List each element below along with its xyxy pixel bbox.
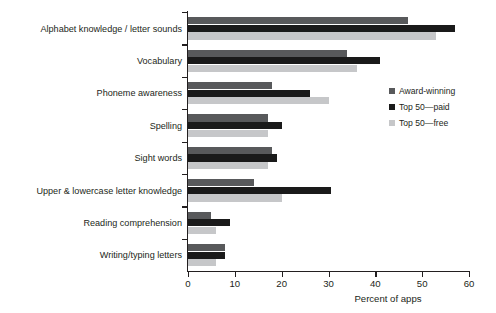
bar-award — [188, 147, 272, 154]
bar-paid — [188, 252, 225, 259]
x-axis-tick-label: 30 — [323, 278, 334, 289]
bar-paid — [188, 122, 282, 129]
x-axis-tick-label: 10 — [229, 278, 240, 289]
bar-free — [188, 194, 282, 201]
bar-free — [188, 130, 268, 137]
x-axis-tick — [188, 272, 189, 277]
bar-award — [188, 212, 211, 219]
x-axis-tick-label: 50 — [417, 278, 428, 289]
bar-paid — [188, 219, 230, 226]
legend-item-award-winning: Award-winning — [389, 83, 455, 99]
bar-paid — [188, 57, 380, 64]
chart-category-row: Reading comprehension — [188, 206, 496, 238]
bar-free — [188, 227, 216, 234]
x-axis-tick-label: 60 — [464, 278, 475, 289]
bar-free — [188, 162, 268, 169]
y-axis-tick — [182, 109, 188, 110]
bar-paid — [188, 187, 331, 194]
y-axis-tick — [182, 12, 188, 13]
chart-category-row: Alphabet knowledge / letter sounds — [188, 12, 496, 44]
legend-swatch-icon-top-50-paid — [389, 104, 395, 110]
x-axis-tick — [422, 272, 423, 277]
legend-swatch-icon-top-50-free — [389, 120, 395, 126]
bar-paid — [188, 25, 455, 32]
category-label: Vocabulary — [2, 56, 182, 66]
bar-paid — [188, 154, 277, 161]
y-axis-tick — [182, 206, 188, 207]
x-axis-tick-label: 0 — [185, 278, 190, 289]
category-label: Alphabet knowledge / letter sounds — [2, 24, 182, 34]
category-label: Sight words — [2, 153, 182, 163]
y-axis-tick — [182, 142, 188, 143]
x-axis-tick — [282, 272, 283, 277]
bar-award — [188, 50, 347, 57]
bar-award — [188, 179, 254, 186]
x-axis-tick — [375, 272, 376, 277]
x-axis-tick — [329, 272, 330, 277]
legend-label-top-50-paid: Top 50—paid — [399, 102, 450, 112]
category-label: Writing/typing letters — [2, 250, 182, 260]
chart-category-row: Writing/typing letters — [188, 239, 496, 271]
y-axis-tick — [182, 174, 188, 175]
category-label: Phoneme awareness — [2, 88, 182, 98]
bar-paid — [188, 90, 310, 97]
legend-swatch-icon-award-winning — [389, 88, 395, 94]
category-label: Reading comprehension — [2, 218, 182, 228]
bar-chart: Alphabet knowledge / letter soundsVocabu… — [0, 0, 496, 313]
x-axis-tick-label: 20 — [276, 278, 287, 289]
x-axis-tick — [235, 272, 236, 277]
category-label: Spelling — [2, 121, 182, 131]
x-axis-tick — [469, 272, 470, 277]
bar-free — [188, 259, 216, 266]
chart-legend: Award-winning Top 50—paid Top 50—free — [389, 83, 455, 131]
bar-award — [188, 114, 268, 121]
bar-free — [188, 65, 357, 72]
bar-award — [188, 17, 408, 24]
y-axis-tick — [182, 239, 188, 240]
x-axis-title: Percent of apps — [0, 293, 496, 304]
legend-item-top-50-free: Top 50—free — [389, 115, 455, 131]
y-axis-tick — [182, 77, 188, 78]
chart-category-row: Upper & lowercase letter knowledge — [188, 174, 496, 206]
chart-category-row: Sight words — [188, 142, 496, 174]
y-axis-tick — [182, 44, 188, 45]
x-axis-tick-label: 40 — [370, 278, 381, 289]
legend-label-award-winning: Award-winning — [399, 86, 455, 96]
bar-free — [188, 97, 329, 104]
legend-item-top-50-paid: Top 50—paid — [389, 99, 455, 115]
bar-award — [188, 244, 225, 251]
legend-label-top-50-free: Top 50—free — [399, 118, 448, 128]
category-label: Upper & lowercase letter knowledge — [2, 186, 182, 196]
bar-free — [188, 32, 436, 39]
bar-award — [188, 82, 272, 89]
chart-category-row: Vocabulary — [188, 44, 496, 76]
x-axis-title-label: Percent of apps — [354, 293, 421, 304]
